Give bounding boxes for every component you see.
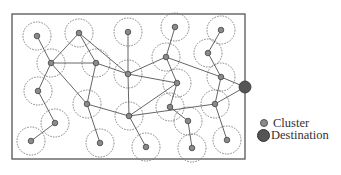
edge [166,57,177,83]
edge [96,63,128,74]
cluster-node [218,74,224,80]
edge [87,104,100,143]
cluster-nodes [28,24,230,151]
cluster-node [174,80,180,86]
edge [128,74,177,83]
edge [166,27,175,57]
cluster-node [167,104,173,110]
cluster-node [125,71,131,77]
edge [129,83,177,116]
cluster-node [34,33,40,39]
cluster-node [97,140,103,146]
edge [128,57,166,74]
cluster-node [218,27,224,33]
edge [87,104,129,116]
destination-dot-icon [257,129,270,142]
edge [51,33,79,63]
edge [79,33,128,74]
edge [128,74,129,116]
cluster-node [52,120,58,126]
edge [31,123,55,141]
edge [166,57,221,77]
cluster-node [143,144,149,150]
cluster-node [125,29,131,35]
range-circles [17,13,241,162]
cluster-node [163,54,169,60]
legend-item-destination: Destination [257,129,329,141]
edge [51,63,87,104]
cluster-node [224,137,230,143]
legend: Cluster Destination [257,117,329,141]
cluster-dot-icon [260,119,268,127]
cluster-node [126,113,132,119]
destination-icon [239,81,251,93]
cluster-node [205,50,211,56]
legend-label-destination: Destination [271,129,329,141]
edge [87,63,96,104]
cluster-node [185,118,191,124]
cluster-node [212,101,218,107]
cluster-node [28,138,34,144]
cluster-node [76,30,82,36]
edge [129,116,146,147]
cluster-node [35,88,41,94]
edge [208,30,221,53]
cluster-node [93,60,99,66]
cluster-node [84,101,90,107]
cluster-node [172,24,178,30]
edge [79,33,96,63]
cluster-node [189,145,195,151]
routing-edges [31,27,245,148]
cluster-node [48,60,54,66]
edge [215,104,227,140]
edge [38,91,55,123]
destination-node [239,81,251,93]
network-diagram [0,0,341,175]
